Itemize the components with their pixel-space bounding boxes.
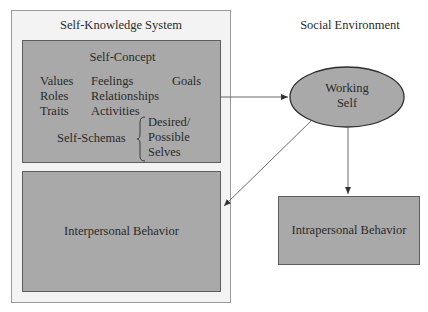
arrow-working-self-to-interpersonal (224, 121, 311, 206)
intrapersonal-behavior-box: Intrapersonal Behavior (278, 196, 420, 265)
working-self-line2: Self (290, 96, 404, 111)
working-self-line1: Working (290, 81, 404, 96)
intrapersonal-behavior-label: Intrapersonal Behavior (292, 223, 407, 238)
working-self-label: Working Self (290, 81, 404, 111)
connector-layer (0, 0, 428, 312)
